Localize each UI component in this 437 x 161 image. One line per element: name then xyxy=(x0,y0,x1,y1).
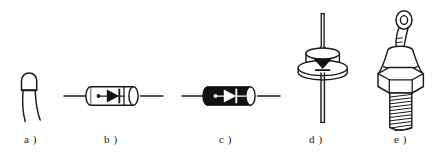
clear-axial-diode-icon xyxy=(64,87,163,105)
figure-drawing xyxy=(0,0,437,161)
press-fit-disc-diode-icon xyxy=(298,14,347,123)
black-axial-diode-icon xyxy=(182,87,280,105)
stud-mount-diode-icon xyxy=(378,11,423,131)
diode-packages-figure: a ) b ) c ) d ) e ) xyxy=(0,0,437,161)
glass-bead-diode-icon xyxy=(22,73,41,122)
